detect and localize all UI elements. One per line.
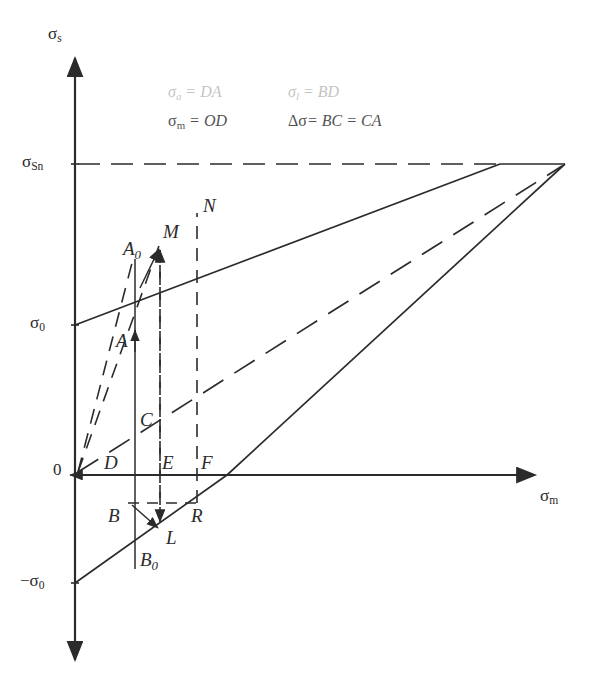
point-label-m: M	[163, 222, 179, 241]
point-label-d: D	[104, 453, 118, 472]
axis-label-horizontal: σm	[540, 487, 558, 507]
annotation-sigma-a: σa = DA	[168, 84, 221, 102]
point-label-f: F	[201, 453, 213, 472]
upper-envelope	[75, 164, 565, 325]
point-label-a: A	[116, 331, 128, 350]
a0m-arrow	[140, 249, 159, 288]
annotation-sigma-m: σm = OD	[168, 113, 227, 131]
point-label-n: N	[203, 196, 216, 215]
origin-label: 0	[53, 461, 62, 478]
bl-arrow	[132, 505, 158, 528]
diagram-svg	[0, 0, 594, 687]
axis-label-vertical: σs	[48, 25, 62, 45]
figure-canvas: σs σm σSn σ0 −σ0 0 σa = DA σl = BD σm = …	[0, 0, 594, 687]
point-label-l: L	[166, 528, 177, 547]
oa0-dashed-line	[78, 259, 133, 472]
point-label-b: B	[108, 506, 120, 525]
point-label-e: E	[162, 453, 174, 472]
annotation-delta-sigma: Δσ= BC = CA	[288, 113, 381, 129]
tick-label-sigma-0: σ0	[30, 314, 45, 334]
point-label-r: R	[191, 506, 203, 525]
om-dashed-line	[78, 243, 160, 472]
point-label-b0: B0	[140, 550, 158, 573]
point-label-c: C	[140, 410, 153, 429]
tick-label-negative-sigma-0: −σ0	[20, 572, 45, 592]
point-label-a0: A0	[123, 239, 141, 262]
annotation-sigma-l: σl = BD	[288, 84, 339, 102]
tick-label-sigma-sn: σSn	[22, 153, 43, 173]
